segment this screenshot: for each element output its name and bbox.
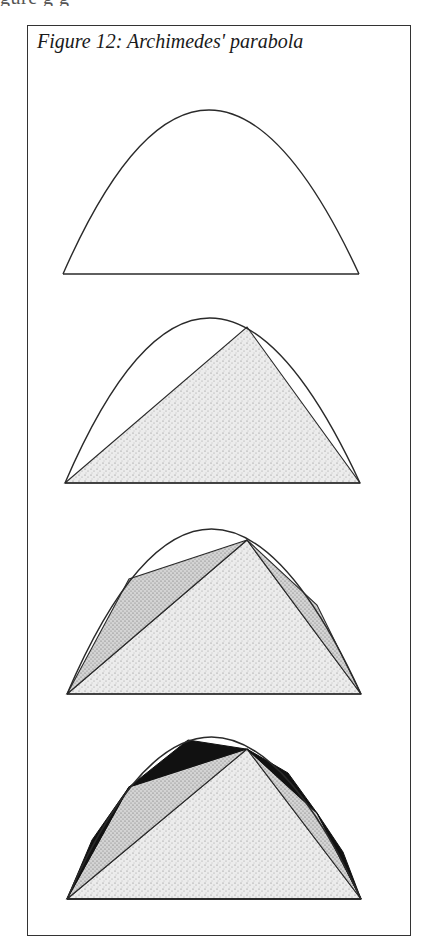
archimedes-parabola-diagram <box>0 0 421 946</box>
panel-4 <box>67 737 361 899</box>
panel-3 <box>67 529 361 694</box>
panel-1 <box>63 110 359 274</box>
panel-2 <box>65 318 360 483</box>
